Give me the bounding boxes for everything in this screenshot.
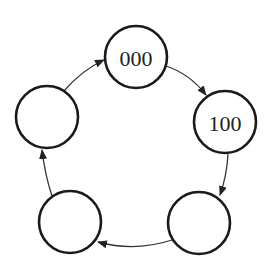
state-label: 100 xyxy=(209,111,242,136)
state-node-blank-left xyxy=(16,86,78,148)
transition-arrow-s4-s0 xyxy=(64,60,104,91)
state-node-blank-bottom-right xyxy=(168,192,230,254)
state-node-blank-bottom-left xyxy=(39,191,101,253)
transition-arrow-s2-s3 xyxy=(98,240,172,247)
transition-arrow-s1-s2 xyxy=(220,154,228,195)
state-label: 000 xyxy=(120,46,153,71)
transition-arrow-s0-s1 xyxy=(166,66,206,95)
state-circle xyxy=(39,191,101,253)
state-diagram: 000 100 xyxy=(0,0,274,269)
transition-arrow-s3-s4 xyxy=(42,150,52,196)
state-circle xyxy=(168,192,230,254)
state-circle xyxy=(16,86,78,148)
state-node-100: 100 xyxy=(194,91,256,153)
state-node-000: 000 xyxy=(105,26,167,88)
